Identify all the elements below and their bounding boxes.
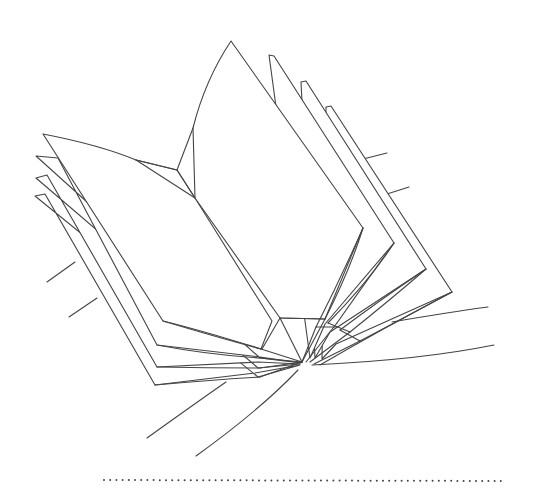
dotted-divider [104,480,502,481]
open-book-illustration [0,0,537,495]
